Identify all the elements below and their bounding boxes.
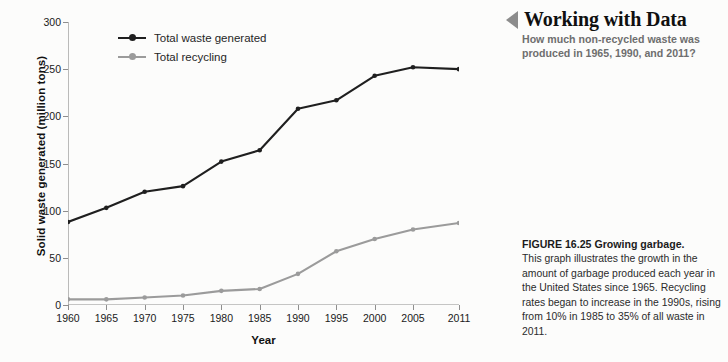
y-tick-label: 50 [49, 252, 61, 264]
figure-caption: FIGURE 16.25 Growing garbage. This graph… [522, 237, 728, 340]
data-point [142, 190, 147, 195]
y-tick-label: 250 [43, 63, 61, 75]
x-tick-label: 1970 [133, 312, 156, 324]
y-tick-label: 150 [43, 158, 61, 170]
legend-label-recycling: Total recycling [154, 51, 227, 63]
y-tick-mark [63, 258, 68, 259]
y-tick-label: 200 [43, 110, 61, 122]
figure-page: Solid waste generated (million tons) 050… [0, 0, 728, 362]
data-point [142, 295, 147, 300]
panel-header: Working with Data [506, 8, 687, 31]
data-point [334, 249, 339, 254]
caption-body: This graph illustrates the growth in the… [522, 252, 728, 340]
legend-label-waste: Total waste generated [154, 32, 267, 44]
x-axis-title: Year [68, 334, 459, 346]
series-line [68, 67, 459, 222]
y-tick-label: 0 [55, 299, 61, 311]
chart-legend: Total waste generated Total recycling [118, 28, 267, 66]
line-chart-figure: Solid waste generated (million tons) 050… [0, 0, 480, 362]
data-point [411, 227, 416, 232]
working-with-data-panel: Working with Data How much non-recycled … [500, 0, 728, 362]
x-tick-mark [298, 305, 299, 310]
data-point [296, 272, 301, 277]
data-point [219, 159, 224, 164]
series-line [68, 223, 459, 299]
x-tick-mark [68, 305, 69, 310]
data-point [296, 106, 301, 111]
legend-item-waste: Total waste generated [118, 28, 267, 47]
data-point [372, 73, 377, 78]
data-point [257, 148, 262, 153]
y-tick-mark [63, 211, 68, 212]
x-tick-label: 1960 [56, 312, 79, 324]
legend-item-recycling: Total recycling [118, 47, 267, 66]
caption-title: FIGURE 16.25 Growing garbage. [522, 237, 728, 251]
x-tick-mark [375, 305, 376, 310]
x-tick-mark [260, 305, 261, 310]
x-tick-label: 2005 [401, 312, 424, 324]
x-tick-mark [459, 305, 460, 310]
y-tick-label: 300 [43, 16, 61, 28]
data-series-group [68, 65, 459, 302]
left-triangle-icon [506, 11, 518, 29]
data-point [104, 297, 109, 302]
data-point [457, 221, 459, 226]
x-tick-mark [106, 305, 107, 310]
panel-question: How much non-recycled waste was produced… [522, 33, 728, 60]
data-point [411, 65, 416, 70]
data-point [181, 293, 186, 298]
x-tick-label: 1965 [95, 312, 118, 324]
data-point [181, 184, 186, 189]
y-tick-mark [63, 116, 68, 117]
y-tick-mark [63, 22, 68, 23]
y-tick-label: 100 [43, 205, 61, 217]
data-point [104, 206, 109, 211]
y-tick-mark [63, 69, 68, 70]
x-tick-label: 1985 [248, 312, 271, 324]
data-point [68, 297, 70, 302]
x-tick-label: 2011 [448, 312, 471, 324]
x-tick-label: 1995 [325, 312, 348, 324]
x-tick-mark [183, 305, 184, 310]
x-tick-label: 1990 [286, 312, 309, 324]
x-tick-mark [221, 305, 222, 310]
x-tick-label: 2000 [363, 312, 386, 324]
x-tick-label: 1975 [171, 312, 194, 324]
x-tick-label: 1980 [210, 312, 233, 324]
legend-swatch-recycling-icon [118, 51, 146, 63]
data-point [257, 287, 262, 292]
x-tick-mark [336, 305, 337, 310]
x-tick-mark [145, 305, 146, 310]
data-point [334, 98, 339, 103]
y-tick-mark [63, 164, 68, 165]
data-point [372, 237, 377, 242]
x-tick-mark [413, 305, 414, 310]
data-point [219, 289, 224, 294]
panel-title: Working with Data [524, 8, 687, 31]
data-point [457, 67, 459, 72]
legend-swatch-waste-icon [118, 32, 146, 44]
